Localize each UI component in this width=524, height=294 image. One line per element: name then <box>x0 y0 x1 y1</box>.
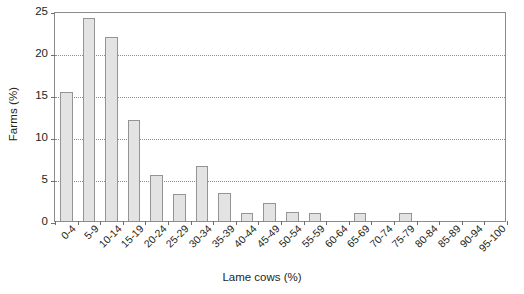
bar <box>83 18 96 221</box>
x-axis-tick-label: 30-34 <box>187 223 213 249</box>
bar <box>60 92 73 221</box>
bar <box>196 166 209 221</box>
gridline <box>55 55 505 56</box>
bar <box>241 213 254 221</box>
x-axis-tick-label: 75-79 <box>390 223 416 249</box>
bar <box>150 175 163 221</box>
gridline <box>55 97 505 98</box>
x-axis-tick-label: 45-49 <box>255 223 281 249</box>
bar <box>399 213 412 221</box>
y-axis-tick-label: 15 <box>20 90 48 102</box>
x-axis-tick-mark <box>507 221 508 225</box>
y-axis-tick-label: 5 <box>20 174 48 186</box>
bar <box>105 37 118 221</box>
x-axis-tick-label: 0-4 <box>60 223 78 241</box>
gridline <box>55 139 505 140</box>
x-axis-tick-label: 35-39 <box>210 223 236 249</box>
y-axis-title-text: Farms (%) <box>7 87 19 142</box>
y-axis-tick-mark <box>51 181 55 182</box>
bar <box>218 193 231 221</box>
histogram-figure: Farms (%) 0510152025 0-45-910-1415-1920-… <box>0 0 524 294</box>
x-axis-tick-label: 60-64 <box>323 223 349 249</box>
x-axis-tick-label: 80-84 <box>413 223 439 249</box>
y-axis-tick-mark <box>51 13 55 14</box>
bar <box>354 213 367 221</box>
bar <box>173 194 186 221</box>
x-axis-title: Lame cows (%) <box>0 271 524 283</box>
plot-inner <box>55 13 505 221</box>
y-axis-tick-label: 25 <box>20 6 48 18</box>
plot-area <box>54 12 506 222</box>
bar <box>263 203 276 221</box>
x-axis-tick-label: 15-19 <box>119 223 145 249</box>
x-axis-tick-label: 55-59 <box>300 223 326 249</box>
y-axis-tick-mark <box>51 55 55 56</box>
x-axis-tick-labels: 0-45-910-1415-1920-2425-2930-3435-3940-4… <box>54 223 506 269</box>
y-axis-tick-label: 0 <box>20 216 48 228</box>
x-axis-tick-label: 10-14 <box>97 223 123 249</box>
x-axis-tick-label: 40-44 <box>232 223 258 249</box>
bar <box>286 212 299 221</box>
x-axis-tick-label: 85-89 <box>436 223 462 249</box>
y-axis-tick-label: 20 <box>20 48 48 60</box>
x-axis-tick-label: 20-24 <box>142 223 168 249</box>
gridline <box>55 181 505 182</box>
y-axis-tick-label: 10 <box>20 132 48 144</box>
y-axis-tick-mark <box>51 97 55 98</box>
x-axis-tick-label: 50-54 <box>277 223 303 249</box>
x-axis-tick-label: 65-69 <box>345 223 371 249</box>
bar <box>128 120 141 221</box>
x-axis-tick-label: 25-29 <box>164 223 190 249</box>
x-axis-tick-label: 70-74 <box>368 223 394 249</box>
y-axis-tick-labels: 0510152025 <box>20 12 48 222</box>
y-axis-tick-mark <box>51 139 55 140</box>
bar <box>309 213 322 221</box>
